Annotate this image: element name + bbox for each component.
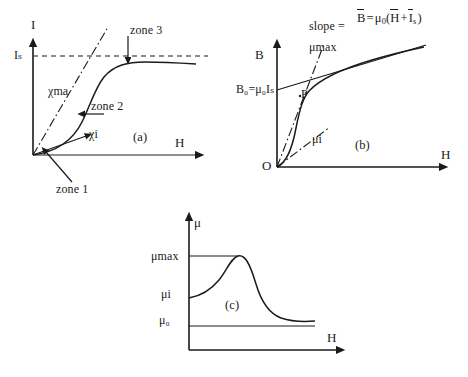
panel-a-y-tick-label: Iₛ xyxy=(14,49,22,61)
panel-b-point-p-label: P xyxy=(301,88,308,100)
panel-b-slope-value-label: μmax xyxy=(309,41,337,53)
panel-a-zone2-label: zone 2 xyxy=(91,100,123,112)
panel-c-y-tick-mu-max: μmax xyxy=(151,250,179,262)
panel-a-x-axis-label: H xyxy=(175,136,185,149)
panel-a-caption: (a) xyxy=(133,131,147,144)
panel-a-chi-ma-label: χma xyxy=(48,85,68,97)
panel-b-equation-label: B = μ0(H + Is ) xyxy=(357,12,422,25)
panel-a-chi-i-label: χi xyxy=(89,128,98,140)
panel-b-induction-curve xyxy=(277,47,424,167)
panel-b-slope-label: slope = xyxy=(309,20,345,32)
panel-a-zone1-label: zone 1 xyxy=(56,183,88,195)
panel-b-y-tick-label: B₀=μ₀Iₛ xyxy=(236,83,274,95)
panel-c-x-axis-label: H xyxy=(327,331,337,344)
panel-b-x-axis-label: H xyxy=(441,148,451,161)
panel-a-zone3-label: zone 3 xyxy=(130,24,162,36)
panel-c-y-tick-mu-i: μi xyxy=(161,288,171,300)
panel-c-caption: (c) xyxy=(225,299,239,312)
panel-c-y-tick-mu-zero: μ₀ xyxy=(159,314,170,326)
panel-a-y-axis-label: I xyxy=(31,18,35,31)
panel-b-origin-label: O xyxy=(262,159,272,172)
figure-magnetization-curves: I Iₛ H zone 3 zone 2 zone 1 χma χi (a) B… xyxy=(0,0,468,377)
panel-b-caption: (b) xyxy=(355,139,370,152)
panel-c-graphics xyxy=(189,220,337,350)
panel-c-y-axis-label: μ xyxy=(194,216,201,229)
panel-b-mu-i-label: μi xyxy=(312,133,322,145)
panel-b-mu-max-tangent xyxy=(277,44,324,167)
panel-a-zone1-arrow xyxy=(46,152,72,182)
panel-b-y-axis-label: B xyxy=(255,48,264,61)
panel-c-permeability-curve xyxy=(189,256,315,322)
